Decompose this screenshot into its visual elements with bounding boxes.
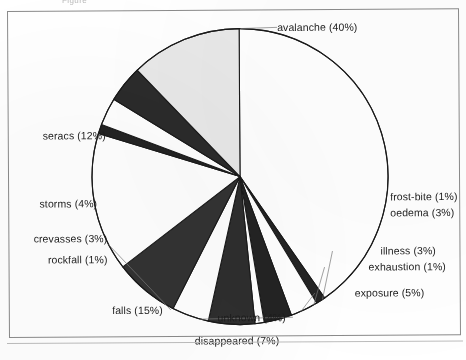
pie-label-exposure: exposure (5%) — [355, 287, 425, 298]
pie-label-oedema: oedema (3%) — [390, 207, 454, 218]
pie-label-seracs: seracs (12%) — [43, 130, 106, 141]
figure-stage: Figure avalanche (40%)frost-bite (1%)oed… — [0, 0, 466, 360]
pie-label-falls: falls (15%) — [112, 305, 163, 316]
pie-label-avalanche: avalanche (40%) — [277, 22, 357, 33]
pie-label-unknown: unknown (4%) — [218, 312, 286, 323]
pie-label-frost-bite: frost-bite (1%) — [390, 191, 458, 202]
cropped-caption: Figure — [62, 0, 172, 5]
pie-label-exhaustion: exhaustion (1%) — [369, 261, 446, 272]
pie-label-disappeared: disappeared (7%) — [195, 335, 280, 346]
figure-frame: avalanche (40%)frost-bite (1%)oedema (3%… — [7, 8, 461, 338]
pie-label-illness: illness (3%) — [380, 245, 436, 256]
pie-label-crevasses: crevasses (3%) — [34, 233, 108, 244]
leader-line-0 — [240, 27, 277, 28]
pie-chart: avalanche (40%)frost-bite (1%)oedema (3%… — [8, 9, 460, 337]
pie-slice-group: avalanche (40%)frost-bite (1%)oedema (3%… — [91, 28, 389, 326]
pie-label-rockfall: rockfall (1%) — [48, 254, 108, 265]
pie-label-storms: storms (4%) — [39, 198, 97, 209]
